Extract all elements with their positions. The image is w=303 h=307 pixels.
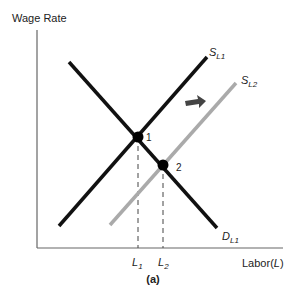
supply-2-label: SL2 [241,74,258,89]
demand-1-label: DL1 [222,230,239,245]
equilibrium-point-1 [133,132,144,143]
supply-curve-2 [110,83,236,225]
tick-l1-label: L1 [132,256,143,271]
equilibrium-point-2 [158,160,169,171]
demand-curve-1 [69,62,217,228]
labor-market-diagram: Wage Rate Labor(L) 1 2 SL1 SL2 DL1 L1 L2… [0,0,303,307]
point-2-label: 2 [176,162,182,173]
shift-right-arrow-icon [185,95,206,108]
x-axis-label: Labor(L) [242,257,284,269]
tick-l2-label: L2 [158,256,169,271]
supply-1-label: SL1 [209,46,225,61]
point-1-label: 1 [146,132,152,143]
y-axis-label: Wage Rate [12,12,67,24]
figure-caption: (a) [146,273,160,285]
